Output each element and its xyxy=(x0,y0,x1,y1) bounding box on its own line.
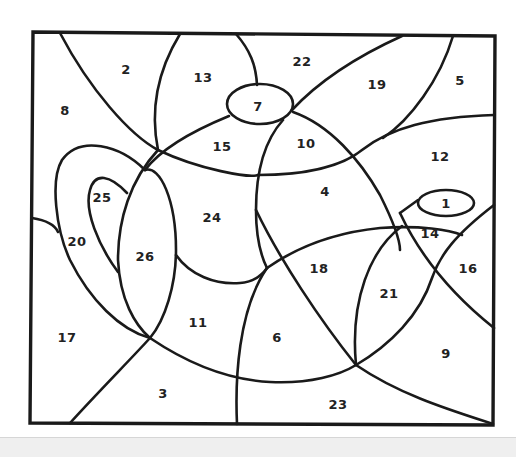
region-label: 16 xyxy=(458,261,477,276)
region-label: 26 xyxy=(135,249,154,264)
region-label: 20 xyxy=(67,234,86,249)
body-left-oval xyxy=(118,150,176,338)
arc-10-15 xyxy=(256,120,283,268)
arc-6-18-diag xyxy=(256,210,493,424)
region-label: 17 xyxy=(57,330,76,345)
arc-3-23 xyxy=(237,268,267,424)
region-label: 12 xyxy=(430,149,449,164)
region-label: 10 xyxy=(296,136,315,151)
region-label: 13 xyxy=(193,70,212,85)
region-label: 1 xyxy=(441,196,451,211)
region-label: 25 xyxy=(92,190,111,205)
arc-24-11 xyxy=(176,255,267,283)
region-label: 6 xyxy=(272,330,282,345)
arc-15-4-12 xyxy=(258,115,494,175)
region-label: 18 xyxy=(309,261,328,276)
region-label: 19 xyxy=(367,77,386,92)
spout-top xyxy=(400,200,418,213)
region-label: 21 xyxy=(379,286,398,301)
region-label: 15 xyxy=(212,139,231,154)
arc-13-22 xyxy=(236,34,257,85)
arc-22-19 xyxy=(292,36,402,110)
region-label: 22 xyxy=(292,54,311,69)
region-label: 7 xyxy=(253,99,263,114)
region-label: 2 xyxy=(121,62,131,77)
pot-top-arc-right xyxy=(293,112,400,250)
region-label: 4 xyxy=(320,184,330,199)
region-label: 14 xyxy=(420,226,439,241)
region-label: 23 xyxy=(328,397,347,412)
page-bottom-edge xyxy=(0,437,516,457)
region-label: 11 xyxy=(188,315,207,330)
region-label: 8 xyxy=(60,103,70,118)
arc-8-20 xyxy=(32,218,58,232)
region-label: 24 xyxy=(202,210,221,225)
arc-19-5 xyxy=(383,36,453,138)
region-label: 5 xyxy=(455,73,465,88)
arc-2-13 xyxy=(155,34,180,150)
region-label: 3 xyxy=(158,386,168,401)
arc-17-3 xyxy=(70,338,150,423)
arc-pot-bottom xyxy=(150,338,356,382)
region-label: 9 xyxy=(441,346,451,361)
